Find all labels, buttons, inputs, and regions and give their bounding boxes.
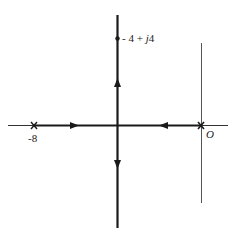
point-label-prefix: - 4 +: [122, 32, 146, 44]
arrow-left-icon: [159, 122, 168, 129]
point-label-minus4-j4: - 4 + j4: [122, 33, 154, 44]
pole-label-minus-8: -8: [28, 133, 37, 144]
arrow-up-icon: [114, 78, 121, 87]
arrow-right-icon: [70, 122, 79, 129]
point-marker-minus4-j4: [115, 36, 119, 40]
point-label-suffix: 4: [149, 32, 155, 44]
root-locus-diagram: [0, 0, 236, 234]
pole-label-origin: O: [206, 129, 214, 140]
arrow-down-icon: [114, 160, 121, 169]
